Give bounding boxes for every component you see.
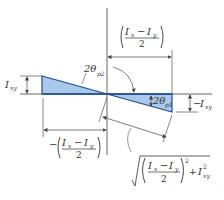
- svg-text:xy: xy: [205, 103, 212, 111]
- hypotenuse-label: I x − I y 2 2 + I xy 2: [132, 156, 210, 186]
- svg-text:−: −: [160, 160, 168, 171]
- svg-text:xy: xy: [10, 84, 17, 92]
- svg-text:xy: xy: [203, 172, 210, 180]
- svg-text:2: 2: [76, 150, 82, 160]
- svg-text:x: x: [131, 31, 135, 38]
- svg-text:x: x: [68, 142, 72, 149]
- svg-text:−: −: [74, 137, 82, 148]
- svg-text:I: I: [124, 26, 130, 37]
- svg-text:2: 2: [161, 174, 167, 184]
- angle-p2-label: 2θ p2: [83, 63, 105, 78]
- hypotenuse-dimension-line: [103, 117, 166, 137]
- left-triangle: [42, 76, 107, 94]
- svg-text:2: 2: [185, 157, 189, 164]
- svg-text:I: I: [147, 160, 153, 171]
- right-height-label: − I xy: [193, 98, 212, 111]
- svg-text:x: x: [154, 165, 158, 172]
- svg-text:−: −: [49, 139, 57, 150]
- svg-text:2: 2: [203, 163, 207, 170]
- svg-text:−: −: [137, 26, 145, 37]
- svg-text:+: +: [189, 167, 197, 177]
- svg-text:p2: p2: [97, 70, 105, 78]
- svg-text:p1: p1: [165, 101, 173, 109]
- svg-text:2θ: 2θ: [83, 63, 96, 74]
- svg-text:I: I: [168, 160, 174, 171]
- svg-text:2: 2: [139, 39, 145, 49]
- svg-text:I: I: [83, 137, 89, 148]
- bottom-dimension-label: − I x − I y 2: [49, 137, 100, 160]
- mohr-diagram: I x − I y 2 I xy − I xy 2θ p2 2θ p1 − I: [0, 0, 224, 200]
- top-dimension-label: I x − I y 2: [121, 26, 163, 49]
- svg-text:I: I: [61, 137, 67, 148]
- svg-text:2θ: 2θ: [152, 95, 165, 106]
- left-height-label: I xy: [4, 79, 17, 92]
- svg-text:I: I: [146, 26, 152, 37]
